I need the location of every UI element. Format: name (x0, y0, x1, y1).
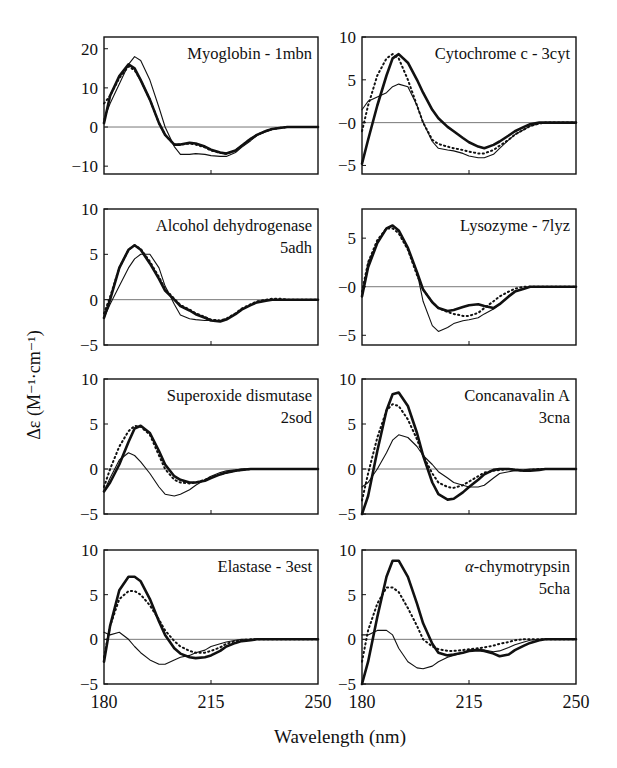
panel-7: −50510Elastase - 3est180215250 (80, 541, 332, 712)
series-thin-solid (104, 254, 318, 320)
series-thick-solid (362, 54, 576, 164)
panel-title: 5adh (280, 238, 313, 257)
x-tick-label: 250 (305, 692, 332, 712)
series-thin-solid (362, 630, 576, 668)
panel-grid: −1001020Myoglobin - 1mbn−5−0510Cytochrom… (71, 28, 589, 712)
series-thick-solid (104, 577, 318, 662)
panel-title: Alcohol dehydrogenase (156, 216, 312, 235)
y-tick-label: 5 (348, 229, 357, 248)
y-tick-label: 10 (81, 200, 98, 219)
series-thin-solid (362, 435, 576, 487)
panel-title: α-chymotrypsin (465, 557, 570, 576)
x-tick-label: 215 (198, 692, 225, 712)
x-axis-label: Wavelength (nm) (274, 726, 406, 748)
series-thick-solid (362, 226, 576, 312)
panel-title: Myoglobin - 1mbn (187, 44, 312, 63)
x-tick-label: 180 (349, 692, 376, 712)
panel-title: Elastase - 3est (218, 557, 313, 576)
series-dotted (362, 228, 576, 316)
panel-title: Superoxide dismutase (167, 386, 312, 405)
x-tick-label: 180 (91, 692, 118, 712)
y-tick-label: 10 (339, 28, 356, 47)
series-thin-solid (362, 84, 576, 158)
panel-title: Lysozyme - 7lyz (460, 216, 570, 235)
series-thin-solid (362, 226, 576, 332)
y-tick-label: 0 (348, 630, 357, 649)
panel-title: Cytochrome c - 3cyt (435, 44, 571, 63)
series-dotted (362, 54, 576, 153)
panel-title: 2sod (281, 408, 313, 427)
y-tick-label: 0 (90, 460, 99, 479)
y-tick-label: 10 (81, 541, 98, 560)
y-tick-label: 10 (81, 79, 98, 98)
y-tick-label: −0 (338, 278, 356, 297)
series-dotted (104, 66, 318, 153)
y-tick-label: −5 (338, 326, 356, 345)
y-tick-label: 0 (90, 630, 99, 649)
y-tick-label: −5 (338, 156, 356, 175)
y-tick-label: 10 (339, 370, 356, 389)
y-tick-label: −10 (71, 157, 98, 176)
series-thick-solid (104, 64, 318, 153)
y-tick-label: −5 (80, 336, 98, 355)
y-tick-label: 0 (348, 460, 357, 479)
y-tick-label: 10 (339, 541, 356, 560)
y-tick-label: 0 (90, 291, 99, 310)
x-tick-label: 250 (563, 692, 590, 712)
panel-1: −1001020Myoglobin - 1mbn (71, 37, 318, 176)
panel-3: −50510Alcohol dehydrogenase5adh (80, 200, 318, 355)
series-thin-solid (104, 453, 318, 496)
y-tick-label: 5 (90, 245, 99, 264)
panel-2: −5−0510Cytochrome c - 3cyt (338, 28, 576, 175)
y-tick-label: −5 (80, 505, 98, 524)
panel-5: −50510Superoxide dismutase2sod (80, 370, 318, 524)
panel-4: −5−05Lysozyme - 7lyz (338, 209, 576, 345)
y-axis-label: Δε (M⁻¹·cm⁻¹) (24, 330, 45, 439)
y-tick-label: 10 (81, 370, 98, 389)
series-thin-solid (104, 632, 318, 664)
panel-title: Concanavalin A (464, 386, 570, 405)
y-tick-label: 20 (81, 40, 98, 59)
y-tick-label: 5 (348, 71, 357, 90)
x-tick-label: 215 (456, 692, 483, 712)
panel-title: 5cha (539, 579, 571, 598)
y-tick-label: −0 (338, 114, 356, 133)
y-tick-label: 0 (90, 118, 99, 137)
series-thick-solid (104, 426, 318, 492)
y-tick-label: 5 (348, 415, 357, 434)
y-axis-label-wrap: Δε (M⁻¹·cm⁻¹) (14, 300, 54, 470)
y-tick-label: 5 (348, 586, 357, 605)
panel-6: −50510Concanavalin A3cna (338, 370, 576, 524)
y-tick-label: 5 (90, 415, 99, 434)
panel-title: 3cna (539, 408, 571, 427)
panel-8: −50510α-chymotrypsin5cha180215250 (338, 541, 590, 712)
cd-spectra-figure: −1001020Myoglobin - 1mbn−5−0510Cytochrom… (0, 0, 617, 768)
y-tick-label: 5 (90, 586, 99, 605)
y-tick-label: −5 (338, 505, 356, 524)
